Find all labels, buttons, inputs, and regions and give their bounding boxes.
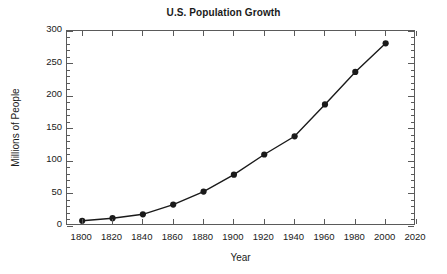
x-axis-tick — [233, 31, 234, 36]
x-axis-tick — [264, 219, 265, 224]
x-axis-tick-label: 2020 — [395, 231, 435, 242]
y-axis-minor-tick — [67, 174, 70, 175]
data-point — [322, 101, 328, 107]
x-axis-tick — [82, 31, 83, 36]
y-axis-minor-tick — [411, 57, 414, 58]
chart-title: U.S. Population Growth — [0, 7, 447, 18]
y-axis-tick — [67, 128, 73, 129]
y-axis-minor-tick — [67, 206, 70, 207]
y-axis-minor-tick — [67, 83, 70, 84]
x-axis-tick — [385, 219, 386, 224]
data-point — [261, 151, 267, 157]
data-point — [352, 69, 358, 75]
x-axis-tick — [324, 31, 325, 36]
data-point — [140, 211, 146, 217]
y-axis-tick — [408, 63, 414, 64]
y-axis-minor-tick — [411, 167, 414, 168]
x-axis-tick — [324, 219, 325, 224]
y-axis-title-label: Millions of People — [10, 88, 21, 166]
y-axis-tick-label: 50 — [22, 186, 62, 197]
y-axis-minor-tick — [67, 167, 70, 168]
y-axis-minor-tick — [67, 141, 70, 142]
y-axis-minor-tick — [411, 102, 414, 103]
plot-area — [66, 30, 415, 225]
y-axis-minor-tick — [67, 135, 70, 136]
x-axis-tick — [112, 219, 113, 224]
x-axis-tick — [416, 31, 417, 36]
y-axis-minor-tick — [411, 37, 414, 38]
y-axis-tick — [408, 226, 414, 227]
x-axis-tick — [203, 31, 204, 36]
data-point — [292, 133, 298, 139]
y-axis-minor-tick — [411, 76, 414, 77]
y-axis-minor-tick — [67, 89, 70, 90]
y-axis-minor-tick — [67, 50, 70, 51]
x-axis-tick — [416, 219, 417, 224]
y-axis-tick-label: 100 — [22, 153, 62, 164]
y-axis-minor-tick — [411, 50, 414, 51]
y-axis-minor-tick — [411, 135, 414, 136]
y-axis-tick-label: 200 — [22, 88, 62, 99]
y-axis-tick — [408, 96, 414, 97]
y-axis-minor-tick — [67, 187, 70, 188]
x-axis-tick — [294, 219, 295, 224]
y-axis-minor-tick — [67, 109, 70, 110]
y-axis-minor-tick — [67, 148, 70, 149]
y-axis-minor-tick — [67, 57, 70, 58]
y-axis-tick — [67, 161, 73, 162]
chart-screenshot: U.S. Population Growth Millions of Peopl… — [0, 0, 447, 274]
x-axis-tick — [82, 219, 83, 224]
y-axis-minor-tick — [67, 180, 70, 181]
y-axis-tick-label: 0 — [22, 218, 62, 229]
data-point — [170, 201, 176, 207]
y-axis-tick — [408, 193, 414, 194]
y-axis-minor-tick — [67, 70, 70, 71]
y-axis-tick-label: 150 — [22, 121, 62, 132]
y-axis-minor-tick — [411, 44, 414, 45]
y-axis-minor-tick — [67, 115, 70, 116]
y-axis-minor-tick — [67, 44, 70, 45]
x-axis-tick — [385, 31, 386, 36]
x-axis-tick — [233, 219, 234, 224]
y-axis-minor-tick — [411, 83, 414, 84]
y-axis-minor-tick — [411, 109, 414, 110]
data-series-line — [67, 31, 416, 226]
y-axis-minor-tick — [411, 200, 414, 201]
x-axis-tick — [142, 31, 143, 36]
y-axis-tick — [67, 193, 73, 194]
y-axis-tick — [67, 226, 73, 227]
series-markers — [79, 40, 389, 224]
y-axis-tick-label: 300 — [22, 23, 62, 34]
y-axis-minor-tick — [411, 115, 414, 116]
y-axis-minor-tick — [411, 213, 414, 214]
x-axis-tick — [173, 31, 174, 36]
y-axis-minor-tick — [67, 219, 70, 220]
data-point — [383, 40, 389, 46]
x-axis-tick — [142, 219, 143, 224]
x-axis-tick — [112, 31, 113, 36]
x-axis-tick — [355, 31, 356, 36]
y-axis-minor-tick — [411, 148, 414, 149]
y-axis-minor-tick — [411, 180, 414, 181]
x-axis-tick — [173, 219, 174, 224]
y-axis-tick — [408, 31, 414, 32]
data-point — [231, 172, 237, 178]
y-axis-tick — [67, 96, 73, 97]
y-axis-tick — [67, 63, 73, 64]
y-axis-tick — [408, 128, 414, 129]
y-axis-minor-tick — [67, 122, 70, 123]
x-axis-tick — [264, 31, 265, 36]
y-axis-tick — [67, 31, 73, 32]
x-axis-tick — [203, 219, 204, 224]
x-axis-tick — [355, 219, 356, 224]
x-axis-title: Year — [66, 252, 415, 263]
y-axis-minor-tick — [67, 213, 70, 214]
y-axis-minor-tick — [411, 122, 414, 123]
y-axis-minor-tick — [411, 174, 414, 175]
y-axis-minor-tick — [67, 102, 70, 103]
y-axis-minor-tick — [411, 89, 414, 90]
data-point — [200, 188, 206, 194]
y-axis-minor-tick — [411, 206, 414, 207]
y-axis-minor-tick — [67, 154, 70, 155]
x-axis-title-label: Year — [230, 252, 250, 263]
